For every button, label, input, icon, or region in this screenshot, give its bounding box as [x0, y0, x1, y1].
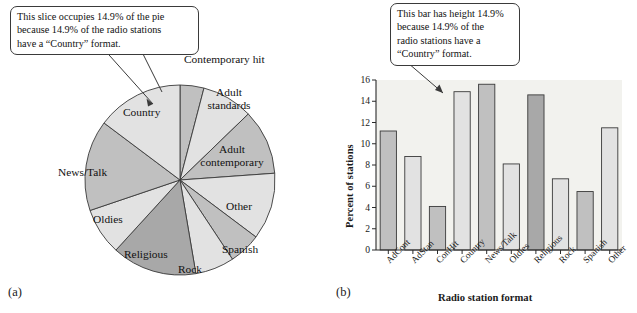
pie-label-country: Country [123, 106, 160, 119]
pie-callout-line-2: because 14.9% of the radio stations [17, 23, 192, 36]
bar [380, 131, 396, 250]
y-tick-label: 14 [348, 95, 370, 106]
pie-label-spanish: Spanish [222, 243, 258, 256]
y-tick-label: 4 [348, 202, 370, 213]
y-tick-label: 6 [348, 180, 370, 191]
y-tick-label: 12 [348, 117, 370, 128]
y-tick-label: 0 [348, 244, 370, 255]
pie-label-oldies: Oldies [93, 213, 123, 226]
bar [602, 128, 618, 250]
bar-callout-line-3: radio stations have a [397, 34, 513, 47]
pie-label-adult-standards-line2: standards [197, 99, 261, 112]
bar [577, 192, 593, 250]
y-tick-marks [372, 80, 376, 250]
y-tick-label: 2 [348, 223, 370, 234]
bar-callout-line-2: because 14.9% of the [397, 20, 513, 33]
bar-callout-box: This bar has height 14.9% because 14.9% … [390, 3, 520, 66]
bar-callout-line-1: This bar has height 14.9% [397, 7, 513, 20]
bar [528, 95, 544, 250]
pie-label-adult-contemporary-line2: contemporary [192, 156, 272, 169]
bar [454, 92, 470, 250]
bar-callout-line-4: “Country” format. [397, 47, 513, 60]
bar [479, 84, 495, 250]
pie-label-adult-standards-line1: Adult [200, 86, 258, 99]
pie-label-religious: Religious [124, 248, 168, 261]
pie-callout-box: This slice occupies 14.9% of the pie bec… [10, 6, 199, 55]
figure-root: This slice occupies 14.9% of the pie bec… [0, 0, 637, 313]
pie-label-other: Other [226, 200, 252, 213]
panel-b-bar-chart: This bar has height 14.9% because 14.9% … [330, 0, 637, 313]
pie-label-news-talk: News/Talk [58, 166, 107, 179]
panel-a-pie-chart: This slice occupies 14.9% of the pie bec… [0, 0, 330, 313]
y-tick-label: 16 [348, 74, 370, 85]
pie-label-contemporary-hit: Contemporary hit [184, 53, 265, 66]
pie-callout-line-3: have a “Country” format. [17, 37, 192, 50]
panel-a-letter: (a) [8, 285, 22, 300]
y-tick-label: 8 [348, 159, 370, 170]
pie-label-adult-contemporary-line1: Adult [206, 143, 258, 156]
y-tick-label: 10 [348, 138, 370, 149]
x-axis-title: Radio station format [438, 292, 532, 303]
pie-label-rock: Rock [178, 263, 202, 276]
pie-callout-line-1: This slice occupies 14.9% of the pie [17, 10, 192, 23]
bar [405, 157, 421, 251]
panel-b-letter: (b) [336, 285, 351, 300]
